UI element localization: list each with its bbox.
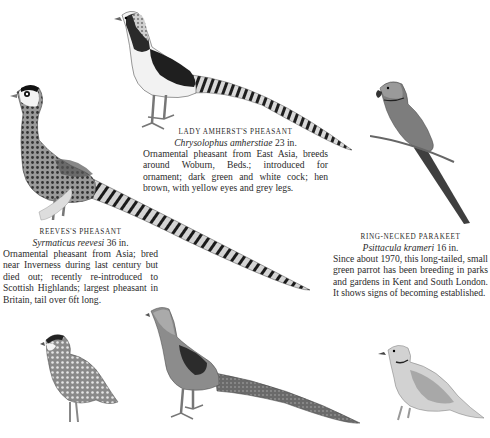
- golden-pheasant-hen-illustration: [145, 305, 365, 430]
- bird-size: 36 in.: [107, 237, 129, 248]
- scientific-name: Syrmaticus reevesi: [32, 237, 104, 248]
- species-name: Lady Amherst's Pheasant: [143, 127, 328, 137]
- species-description: Ornamental pheasant from East Asia, bree…: [143, 148, 328, 194]
- scientific-name: Chrysolophus amherstiae: [174, 137, 272, 148]
- caption-reeves-pheasant: Reeves's Pheasant Syrmaticus reevesi 36 …: [3, 227, 158, 305]
- bird-size: 16 in.: [437, 242, 459, 253]
- species-description: Since about 1970, this long-tailed, smal…: [333, 253, 488, 299]
- scientific-name: Psittacula krameri: [363, 242, 435, 253]
- bobwhite-quail-illustration: [40, 330, 125, 430]
- species-name: Ring-necked Parakeet: [333, 232, 488, 242]
- bird-size: 23 in.: [275, 137, 297, 148]
- species-name: Reeves's Pheasant: [3, 227, 158, 237]
- caption-lady-amherst-pheasant: Lady Amherst's Pheasant Chrysolophus amh…: [143, 127, 328, 194]
- caption-ring-necked-parakeet: Ring-necked Parakeet Psittacula krameri …: [333, 232, 488, 299]
- collared-dove-illustration: [378, 340, 488, 430]
- species-description: Ornamental pheasant from Asia; bred near…: [3, 248, 158, 305]
- ring-necked-parakeet-illustration: [370, 78, 480, 228]
